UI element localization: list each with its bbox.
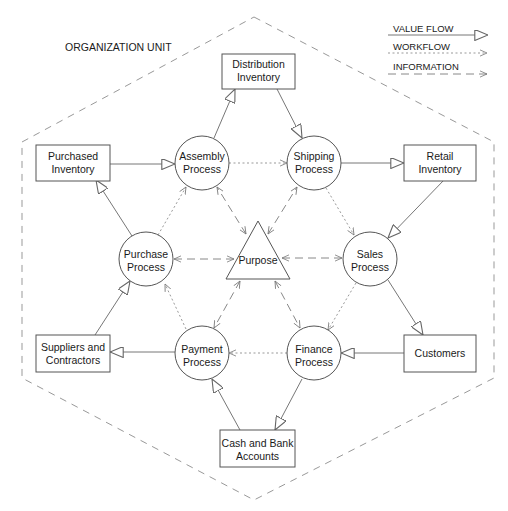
svg-text:Process: Process <box>183 356 221 368</box>
resource-suppliers-contractors[interactable]: Suppliers and Contractors <box>36 335 110 372</box>
svg-text:Process: Process <box>295 163 333 175</box>
flow-retail-to-sales <box>388 180 444 238</box>
purpose-triangle[interactable]: Purpose <box>226 221 290 279</box>
process-purchase[interactable]: Purchase Process <box>119 232 173 286</box>
svg-text:Shipping: Shipping <box>294 150 335 162</box>
process-finance[interactable]: Finance Process <box>287 326 341 380</box>
workflow-payment-to-purchase <box>165 284 186 329</box>
workflow-shipping-to-sales <box>326 188 354 235</box>
info-purpose-shipping <box>268 187 297 234</box>
flow-finance-to-cash <box>275 379 302 430</box>
svg-text:Assembly: Assembly <box>179 150 225 162</box>
workflow-purchase-to-assembly <box>158 187 186 235</box>
svg-text:Purchased: Purchased <box>48 150 98 162</box>
legend: VALUE FLOW WORKFLOW INFORMATION <box>388 23 488 74</box>
flow-cash-to-payment <box>212 379 240 430</box>
resource-customers[interactable]: Customers <box>404 335 476 372</box>
svg-text:Purchase: Purchase <box>124 248 169 260</box>
organization-unit-label: ORGANIZATION UNIT <box>65 41 172 53</box>
resource-distribution-inventory[interactable]: Distribution Inventory <box>222 54 295 89</box>
svg-text:Finance: Finance <box>295 343 333 355</box>
svg-text:Cash and Bank: Cash and Bank <box>222 437 295 449</box>
info-purpose-finance <box>275 281 300 328</box>
process-shipping[interactable]: Shipping Process <box>287 136 341 190</box>
svg-text:Process: Process <box>127 261 165 273</box>
svg-text:Accounts: Accounts <box>236 450 279 462</box>
svg-text:Inventory: Inventory <box>418 163 462 175</box>
svg-text:Distribution: Distribution <box>232 58 285 70</box>
process-payment[interactable]: Payment Process <box>175 326 229 380</box>
svg-text:Contractors: Contractors <box>46 354 100 366</box>
svg-text:Inventory: Inventory <box>237 71 281 83</box>
legend-value-flow-label: VALUE FLOW <box>393 23 454 34</box>
resource-cash-bank-accounts[interactable]: Cash and Bank Accounts <box>220 430 295 467</box>
svg-text:Process: Process <box>351 261 389 273</box>
svg-text:Suppliers and: Suppliers and <box>41 341 105 353</box>
info-purpose-payment <box>214 281 240 328</box>
legend-workflow-label: WORKFLOW <box>393 41 450 52</box>
svg-text:Payment: Payment <box>181 343 223 355</box>
workflow-sales-to-finance <box>328 283 356 330</box>
svg-text:Customers: Customers <box>415 347 466 359</box>
flow-purchase-to-purchased <box>96 180 132 236</box>
svg-text:Inventory: Inventory <box>51 163 95 175</box>
svg-text:Retail: Retail <box>427 150 454 162</box>
diagram-canvas: ORGANIZATION UNIT VALUE FLOW WORKFLOW IN… <box>0 0 508 511</box>
flow-sales-to-customers <box>388 280 423 335</box>
flow-assembly-to-distribution <box>214 89 235 138</box>
resource-retail-inventory[interactable]: Retail Inventory <box>404 145 476 181</box>
svg-text:Process: Process <box>183 163 221 175</box>
legend-information-label: INFORMATION <box>393 61 459 72</box>
flow-suppliers-to-purchase <box>95 281 130 335</box>
svg-text:Process: Process <box>295 356 333 368</box>
flow-distribution-to-shipping <box>277 89 302 138</box>
resource-purchased-inventory[interactable]: Purchased Inventory <box>36 145 110 181</box>
svg-text:Sales: Sales <box>357 248 383 260</box>
process-sales[interactable]: Sales Process <box>343 232 397 286</box>
svg-text:Purpose: Purpose <box>238 254 277 266</box>
process-assembly[interactable]: Assembly Process <box>175 136 229 190</box>
info-purpose-assembly <box>217 187 246 234</box>
